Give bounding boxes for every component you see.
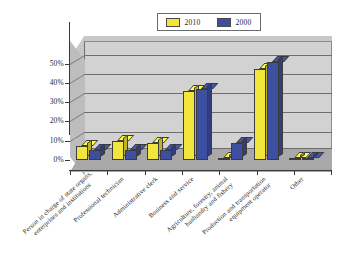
y-axis-label: 40% [50, 78, 64, 87]
bar-front-face [254, 69, 266, 160]
bar-front-face [196, 89, 208, 160]
legend-entry-2010: 2010 [166, 18, 200, 27]
legend-label-2010: 2010 [184, 18, 200, 27]
legend-swatch-2000 [217, 18, 231, 27]
bar-2010 [112, 141, 124, 160]
bar-2000 [231, 143, 243, 160]
bar-2000 [89, 150, 101, 160]
bar-2010 [76, 146, 88, 160]
gridline [84, 74, 332, 75]
y-axis-tick [65, 160, 70, 161]
x-axis-category-labels: Person in charge of state organs, enterp… [0, 171, 347, 279]
y-axis-label: 10% [50, 136, 64, 145]
bar-front-face [112, 141, 124, 160]
y-axis-label: 50% [50, 59, 64, 68]
bar-chart: 2010 2000 0%10%20%30%40%50% Person in ch… [0, 0, 347, 279]
y-axis-tick [65, 83, 70, 84]
bar-2000 [125, 150, 137, 160]
bar-side-face [242, 136, 247, 157]
bar-front-face [183, 91, 195, 160]
bar-2010 [289, 158, 301, 161]
y-axis-line [69, 22, 70, 135]
bar-2000 [302, 158, 314, 161]
bar-2010 [218, 158, 230, 161]
bar-2010 [183, 91, 195, 160]
legend-label-2000: 2000 [235, 18, 251, 27]
bar-side-face [278, 55, 283, 157]
bar-2000 [196, 89, 208, 160]
y-axis-label: 20% [50, 116, 64, 125]
bar-2000 [160, 150, 172, 160]
y-axis-label: 30% [50, 97, 64, 106]
bar-side-face [207, 82, 212, 157]
gridline [84, 55, 332, 56]
bar-front-face [125, 150, 137, 160]
y-axis-tick [65, 64, 70, 65]
y-axis-tick [65, 102, 70, 103]
legend-entry-2000: 2000 [217, 18, 251, 27]
bar-2000 [267, 62, 279, 160]
legend-swatch-2010 [166, 18, 180, 27]
bar-2010 [147, 143, 159, 160]
chart-legend: 2010 2000 [157, 13, 261, 31]
bar-2010 [254, 69, 266, 160]
y-axis-tick [65, 121, 70, 122]
y-axis-tick [65, 141, 70, 142]
bar-front-face [267, 62, 279, 160]
y-axis-label: 0% [54, 155, 64, 164]
